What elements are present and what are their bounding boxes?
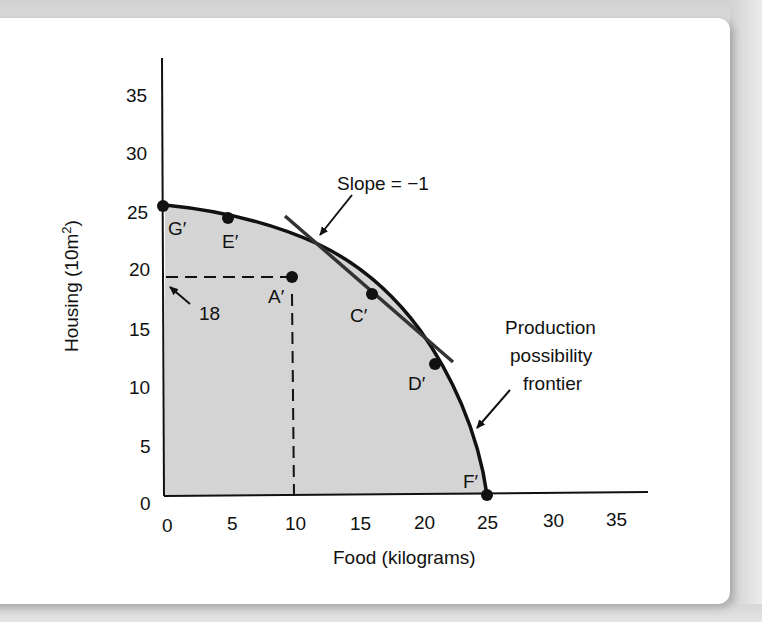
y-tick-15: 15 (129, 319, 150, 340)
y-tick-25: 25 (127, 202, 148, 223)
label-f: F′ (463, 471, 479, 492)
label-g: G′ (168, 218, 187, 239)
svg-text:Housing (10m2): Housing (10m2) (59, 220, 82, 352)
ppf-chart: G′ E′ A′ C′ D′ F′ Slope = −1 18 Producti… (0, 0, 762, 622)
ppf-label-line2: possibility (510, 345, 593, 366)
y-tick-0: 0 (140, 493, 151, 514)
slope-annotation: Slope = −1 (337, 173, 429, 194)
x-axis-label: Food (kilograms) (333, 547, 476, 568)
x-tick-35: 35 (606, 509, 627, 530)
x-tick-20: 20 (414, 512, 435, 533)
label-c: C′ (350, 305, 368, 326)
point-f (481, 489, 493, 501)
x-tick-5: 5 (227, 513, 238, 534)
point-e (222, 212, 234, 224)
y-axis-label: Housing (10m2) (59, 220, 82, 352)
x-tick-25: 25 (477, 512, 498, 533)
y-tick-5: 5 (140, 436, 151, 457)
ppf-label-line1: Production (505, 317, 596, 338)
x-tick-10: 10 (285, 513, 306, 534)
y-tick-35: 35 (126, 85, 147, 106)
y-tick-20: 20 (129, 259, 150, 280)
ppf-arrow (477, 390, 510, 428)
point-g (157, 200, 169, 212)
y-tick-30: 30 (126, 143, 147, 164)
value-18-label: 18 (199, 303, 220, 324)
label-d: D′ (408, 373, 426, 394)
y-axis-label-close: ) (61, 220, 82, 226)
point-a (286, 271, 298, 283)
point-c (366, 288, 378, 300)
y-axis (162, 58, 164, 496)
point-d (429, 358, 441, 370)
ppf-label-line3: frontier (523, 373, 583, 394)
label-a: A′ (268, 286, 285, 307)
y-axis-label-main: Housing (10m (61, 234, 82, 352)
y-axis-label-sup: 2 (59, 226, 74, 233)
slope-arrow (320, 195, 352, 235)
x-tick-30: 30 (543, 510, 564, 531)
label-e: E′ (222, 231, 239, 252)
x-tick-15: 15 (350, 513, 371, 534)
x-tick-0: 0 (162, 515, 173, 536)
y-tick-10: 10 (129, 377, 150, 398)
